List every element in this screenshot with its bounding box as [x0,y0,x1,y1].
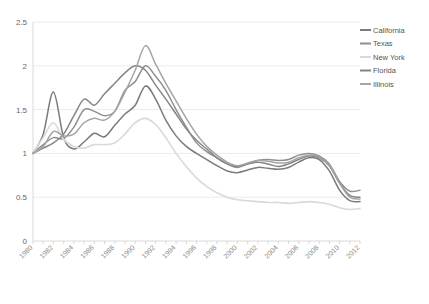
x-axis-tick-label: 2000 [222,244,238,260]
x-axis-tick-label: 1998 [202,244,218,260]
legend-label-florida[interactable]: Florida [373,66,397,75]
legend-label-california[interactable]: California [373,26,406,35]
x-axis-tick-label: 1996 [181,244,197,260]
legend-label-illinois[interactable]: Illinois [373,80,394,89]
x-axis-tick-label: 2002 [243,244,259,260]
legend-label-texas[interactable]: Texas [373,39,393,48]
y-axis-tick-label: 2 [23,62,28,71]
y-axis-tick-label: 1 [23,149,28,158]
x-axis-tick-label: 2012 [345,244,361,260]
x-axis-tick-label: 1986 [79,244,95,260]
x-axis-tick-label: 1988 [99,244,115,260]
chart-svg: 00.511.522.51980198219841986198819901992… [0,0,429,304]
series-line-illinois [33,46,360,199]
series-line-new-york [33,118,360,209]
line-chart: 00.511.522.51980198219841986198819901992… [0,0,429,304]
y-axis-tick-label: 2.5 [16,18,28,27]
x-axis-tick-label: 1994 [161,244,177,260]
x-axis-tick-label: 1982 [38,244,54,260]
x-axis-tick-label: 1984 [59,244,75,260]
x-axis-tick-label: 1980 [18,244,34,260]
x-axis-tick-label: 1992 [140,244,156,260]
y-axis-tick-label: 0.5 [16,193,28,202]
x-axis-tick-label: 2010 [324,244,340,260]
x-axis-tick-label: 2006 [283,244,299,260]
x-axis-tick-label: 2008 [304,244,320,260]
legend-label-new-york[interactable]: New York [373,53,405,62]
y-axis-tick-label: 1.5 [16,106,28,115]
x-axis-tick-label: 1990 [120,244,136,260]
x-axis-tick-label: 2004 [263,244,279,260]
series-line-texas [33,66,360,192]
